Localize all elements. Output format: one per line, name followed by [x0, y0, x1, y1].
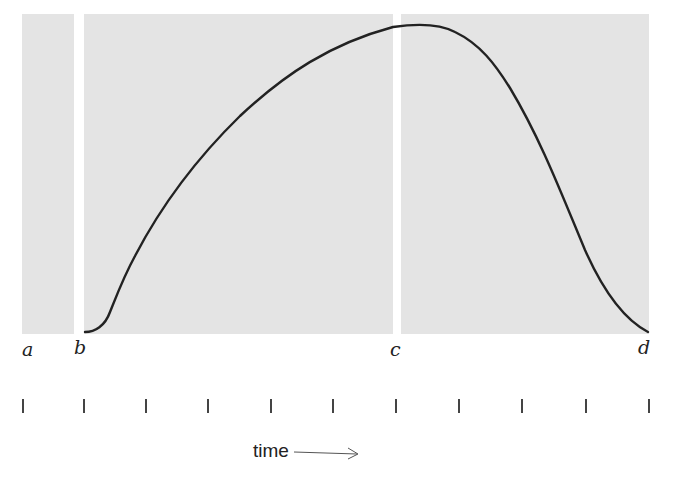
- tick: [83, 399, 85, 413]
- label-b: b: [74, 336, 86, 358]
- time-axis-label: time: [253, 440, 289, 462]
- tick: [145, 399, 147, 413]
- tick: [395, 399, 397, 413]
- tick: [207, 399, 209, 413]
- tick: [648, 399, 650, 413]
- growth-curve: [0, 0, 675, 479]
- tick: [270, 399, 272, 413]
- tick: [458, 399, 460, 413]
- tick: [22, 399, 24, 413]
- label-c: c: [390, 338, 401, 360]
- label-d: d: [638, 336, 650, 358]
- right-arrow-icon: [293, 446, 361, 460]
- tick: [332, 399, 334, 413]
- label-a: a: [22, 338, 33, 360]
- tick: [585, 399, 587, 413]
- tick: [521, 399, 523, 413]
